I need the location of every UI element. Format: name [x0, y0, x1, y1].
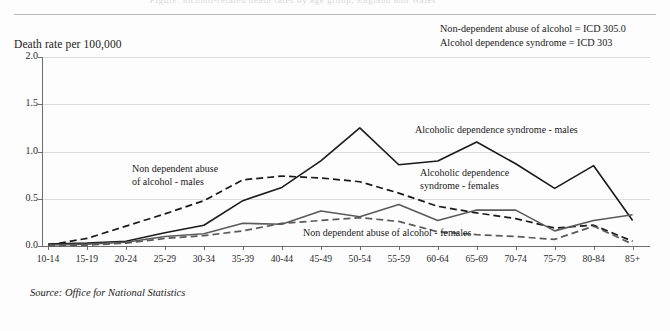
y-tick-label: 0.0 [12, 239, 38, 250]
x-tick-label: 30-34 [193, 253, 215, 264]
y-axis-caption: Death rate per 100,000 [14, 38, 122, 50]
y-tick-label: 0.5 [12, 192, 38, 203]
annotation-female-dependence-line1: Alcoholic dependence [420, 167, 509, 180]
annotation-female-nondependent: Non dependent abuse of alcohol - females [303, 227, 471, 240]
source-note: Source: Office for National Statistics [30, 287, 185, 298]
annotation-male-nondependent-line1: Non dependent abuse [132, 163, 218, 176]
annotation-female-dependence-line2: syndrome - females [420, 180, 509, 193]
annotation-female-dependence: Alcoholic dependence syndrome - females [420, 167, 509, 192]
x-tick-label: 40-44 [271, 253, 293, 264]
y-tick-label: 1.5 [12, 97, 38, 108]
annotation-male-nondependent-line2: of alcohol - males [132, 176, 218, 189]
legend-block: Non-dependent abuse of alcohol = ICD 305… [440, 22, 626, 49]
annotation-male-dependence: Alcoholic dependence syndrome - males [415, 124, 578, 137]
x-tick-label: 45-49 [310, 253, 332, 264]
x-tick-label: 65-69 [466, 253, 488, 264]
legend-line-2: Alcohol dependence syndrome = ICD 303 [440, 36, 626, 50]
x-tick-label: 15-19 [76, 253, 98, 264]
header-divider [14, 14, 656, 15]
x-tick-label: 20-24 [115, 253, 137, 264]
x-tick-label: 25-29 [154, 253, 176, 264]
y-tick-label: 2.0 [12, 50, 38, 61]
x-tick-label: 60-64 [427, 253, 449, 264]
chart-page: Figure: alcohol-related death rates by a… [0, 0, 670, 331]
x-tick-label: 10-14 [37, 253, 59, 264]
series-lines [42, 57, 650, 247]
x-tick-label: 80-84 [582, 253, 604, 264]
x-tick-label: 55-59 [388, 253, 410, 264]
x-tick-label: 35-39 [232, 253, 254, 264]
x-tick-label: 75-79 [543, 253, 565, 264]
annotation-male-nondependent: Non dependent abuse of alcohol - males [132, 163, 218, 188]
plot-area: 0.00.51.01.52.0 10-1415-1920-2425-2930-3… [42, 57, 650, 246]
x-tick-label: 70-74 [504, 253, 526, 264]
legend-line-1: Non-dependent abuse of alcohol = ICD 305… [440, 22, 626, 36]
clipped-header-text: Figure: alcohol-related death rates by a… [150, 0, 570, 7]
x-tick-label: 50-54 [349, 253, 371, 264]
y-tick-label: 1.0 [12, 145, 38, 156]
x-tick-label: 85+ [625, 253, 640, 264]
